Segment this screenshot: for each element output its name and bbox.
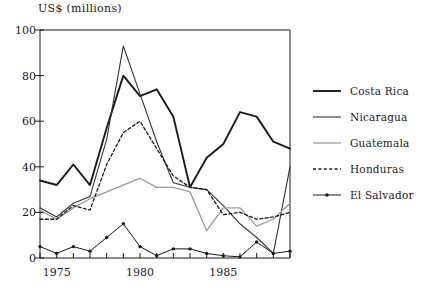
data-point-marker (172, 247, 175, 250)
data-point-marker (105, 236, 108, 239)
legend-item-costa-rica[interactable]: Costa Rica (312, 78, 429, 104)
legend-label: El Salvador (350, 189, 414, 201)
legend-item-guatemala[interactable]: Guatemala (312, 130, 429, 156)
data-point-marker (288, 249, 291, 252)
chart-legend: Costa RicaNicaraguaGuatemalaHondurasEl S… (312, 78, 429, 208)
data-point-marker (255, 240, 258, 243)
legend-item-honduras[interactable]: Honduras (312, 156, 429, 182)
legend-swatch-icon (312, 85, 342, 97)
data-point-marker (188, 247, 191, 250)
legend-item-el-salvador[interactable]: El Salvador (312, 182, 429, 208)
line-chart-figure: US$ (millions) 020406080100 197519801985… (0, 0, 429, 288)
data-point-marker (155, 254, 158, 257)
legend-label: Honduras (350, 163, 404, 175)
series-line-guatemala (40, 178, 290, 230)
legend-label: Guatemala (350, 137, 409, 149)
data-point-marker (88, 249, 91, 252)
legend-swatch-icon (312, 111, 342, 123)
data-point-marker (122, 222, 125, 225)
plot-frame (40, 30, 290, 258)
data-point-marker (238, 255, 241, 258)
data-point-marker (38, 245, 41, 248)
legend-swatch-icon (312, 163, 342, 175)
data-point-marker (72, 245, 75, 248)
data-point-marker (222, 254, 225, 257)
data-point-marker (55, 252, 58, 255)
data-point-marker (272, 252, 275, 255)
legend-label: Nicaragua (350, 111, 408, 123)
legend-swatch-icon (312, 189, 342, 201)
legend-swatch-icon (312, 137, 342, 149)
data-point-marker (138, 245, 141, 248)
legend-label: Costa Rica (350, 85, 409, 97)
series-line-costa-rica (40, 76, 290, 188)
legend-item-nicaragua[interactable]: Nicaragua (312, 104, 429, 130)
series-line-el-salvador (40, 224, 290, 257)
data-point-marker (205, 252, 208, 255)
